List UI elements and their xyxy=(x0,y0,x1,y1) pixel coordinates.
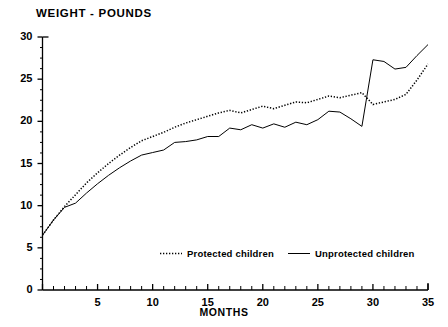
dotted-line-swatch-icon xyxy=(160,250,182,257)
legend-label-protected: Protected children xyxy=(187,248,274,259)
y-tick-label: 15 xyxy=(7,157,33,169)
solid-line-swatch-icon xyxy=(288,250,310,257)
series-line-protected xyxy=(43,64,429,235)
y-tick-label: 30 xyxy=(7,30,33,42)
legend-label-unprotected: Unprotected children xyxy=(315,248,415,259)
x-axis-title: MONTHS xyxy=(0,306,448,318)
weight-growth-chart: WEIGHT - POUNDS 051015202530 51015202530… xyxy=(0,0,448,327)
y-tick-label: 10 xyxy=(7,199,33,211)
y-tick-label: 0 xyxy=(7,283,33,295)
y-tick-label: 5 xyxy=(7,241,33,253)
chart-legend: Protected children Unprotected children xyxy=(160,248,415,259)
plot-area xyxy=(0,0,448,327)
legend-item-protected: Protected children xyxy=(160,248,274,259)
data-series-layer xyxy=(43,45,429,236)
legend-item-unprotected: Unprotected children xyxy=(288,248,415,259)
y-tick-label: 25 xyxy=(7,72,33,84)
series-line-unprotected xyxy=(43,45,429,236)
y-tick-label: 20 xyxy=(7,114,33,126)
